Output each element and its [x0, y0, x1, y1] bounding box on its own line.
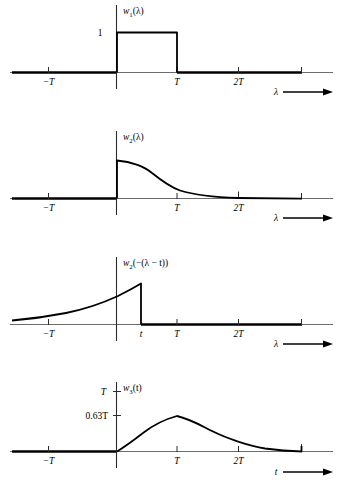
panel-w3-xticklabel-2T: 2T — [233, 456, 244, 466]
panel-w2-curve — [117, 161, 302, 199]
panel-w1-ylabel-1: 1 — [98, 28, 103, 38]
panel-w3r-curve — [12, 284, 141, 325]
panel-w3-xticklabel-T: T — [174, 456, 180, 466]
panel-w1-function-label: w1(λ) — [123, 6, 144, 18]
panel-w1-xticklabel-T: T — [174, 77, 180, 87]
panel-w3r-xticklabel-2T: 2T — [233, 329, 244, 339]
panel-w3-ylabel-063T: 0.63T — [86, 411, 109, 421]
panel-w2-xticklabel-negT: −T — [43, 203, 55, 213]
panel-w1-xaxis-arrow-head — [323, 89, 333, 96]
panel-w1: 1 w1(λ) −T T 2T λ — [10, 5, 333, 97]
panel-w3-xaxis-arrow-head — [323, 469, 333, 476]
panel-w3r-function-label: w2(−(λ − t)) — [123, 258, 168, 270]
panel-w3r-xticklabel-T: T — [174, 329, 180, 339]
panel-w3r-xticklabel-t: t — [140, 329, 143, 339]
panel-w3r-xaxis-arrow-head — [323, 341, 333, 348]
panel-w2-xticklabel-2T: 2T — [233, 203, 244, 213]
panel-w3-ylabel-T: T — [101, 387, 107, 397]
convolution-figure: 1 w1(λ) −T T 2T λ w2(λ) −T T 2T λ — [0, 0, 343, 484]
panel-w3-function-label: w3(t) — [123, 383, 142, 395]
panel-w2-xticklabel-T: T — [174, 203, 180, 213]
panel-w2-reflected: w2(−(λ − t)) −T t T 2T λ — [10, 257, 333, 349]
panel-w3r-xticklabel-negT: −T — [43, 329, 55, 339]
panel-w1-xticklabel-2T: 2T — [233, 77, 244, 87]
panel-w2-xaxis-arrow-head — [323, 215, 333, 222]
panel-w3-curve — [117, 416, 302, 452]
panel-w3-xaxis-name: t — [275, 467, 278, 477]
panel-w3: w3(t) T 0.63T −T T 2T t — [10, 382, 333, 477]
panel-w3-xticklabel-negT: −T — [43, 456, 55, 466]
panel-w1-xticklabel-negT: −T — [43, 77, 55, 87]
panel-w2-xaxis-name: λ — [273, 213, 278, 223]
panel-w2: w2(λ) −T T 2T λ — [10, 131, 333, 223]
panel-w1-xaxis-name: λ — [273, 87, 278, 97]
panel-w1-curve — [117, 33, 177, 73]
panel-w2-function-label: w2(λ) — [123, 132, 144, 144]
panel-w3r-xaxis-name: λ — [273, 339, 278, 349]
